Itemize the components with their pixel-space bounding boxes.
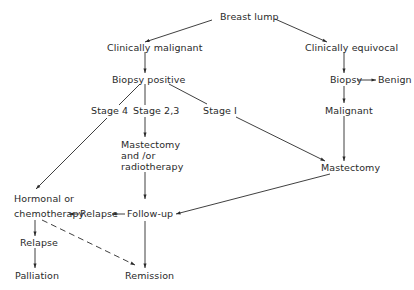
node-mastectomy-radiotherapy-line1: Mastectomy — [121, 139, 183, 150]
node-mastectomy: Mastectomy — [321, 162, 380, 174]
node-clinically-malignant: Clinically malignant — [107, 42, 203, 54]
node-stage-4: Stage 4 — [91, 105, 128, 117]
node-breast-lump: Breast lump — [220, 11, 279, 23]
node-mastectomy-radiotherapy-line3: radiotherapy — [121, 161, 183, 172]
node-biopsy: Biopsy — [330, 74, 362, 86]
node-remission: Remission — [125, 270, 174, 282]
node-mastectomy-radiotherapy: Mastectomy and /or radiotherapy — [121, 139, 183, 172]
node-hormonal-line2: chemotherapy — [14, 208, 84, 220]
node-benign: Benign — [378, 74, 412, 86]
node-relapse-lower: Relapse — [20, 237, 58, 249]
edge-lump-to-malignant — [145, 20, 212, 42]
node-malignant: Malignant — [325, 105, 373, 117]
edge-mastectomy-to-followup — [176, 174, 330, 214]
edge-biopsy-to-stage1 — [169, 84, 207, 104]
node-stage-1: Stage I — [203, 105, 237, 117]
node-biopsy-positive: Biopsy positive — [112, 74, 185, 86]
node-palliation: Palliation — [15, 270, 59, 282]
edge-lump-to-equivocal — [275, 19, 327, 42]
node-mastectomy-radiotherapy-line2: and /or — [121, 150, 183, 161]
node-hormonal-line1: Hormonal or — [14, 193, 74, 205]
edge-stage4-to-hormonal — [36, 118, 107, 189]
edge-stage1-to-mastectomy — [236, 117, 325, 161]
node-clinically-equivocal: Clinically equivocal — [305, 42, 398, 54]
edge-biopsy-to-stage4 — [119, 84, 140, 105]
node-relapse-middle: Relapse — [80, 208, 118, 220]
node-stage-2-3: Stage 2,3 — [133, 105, 179, 117]
node-follow-up: Follow-up — [127, 208, 173, 220]
